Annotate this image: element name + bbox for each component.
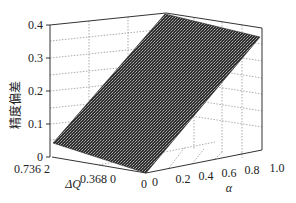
z-tick: 0.1 — [28, 117, 43, 131]
x-tick: 1.0 — [270, 161, 285, 175]
y-tick: 0.368 0 — [80, 172, 116, 186]
y-axis-label: ΔQ — [64, 177, 81, 191]
z-tick: 0.3 — [28, 51, 43, 65]
x-tick: 0.8 — [245, 163, 260, 177]
x-axis-label: α — [226, 181, 233, 195]
y-tick: 0 — [141, 177, 147, 191]
z-tick: 0.4 — [28, 18, 43, 32]
x-tick: 0.6 — [222, 166, 237, 180]
surface-plot: 0.4 0.3 0.2 0.1 0 精度偏差 0.736 2 0.368 0 0… — [0, 0, 296, 203]
surface-plane — [53, 14, 260, 173]
x-tick: 0.4 — [199, 169, 214, 183]
x-tick-labels: 0 0.2 0.4 0.6 0.8 1.0 — [152, 161, 285, 189]
x-tick: 0.2 — [176, 172, 191, 186]
z-tick: 0.2 — [28, 84, 43, 98]
y-tick: 0.736 2 — [14, 162, 50, 176]
z-axis-label: 精度偏差 — [8, 81, 23, 129]
z-tick-labels: 0.4 0.3 0.2 0.1 0 — [28, 18, 43, 164]
x-tick: 0 — [152, 175, 158, 189]
